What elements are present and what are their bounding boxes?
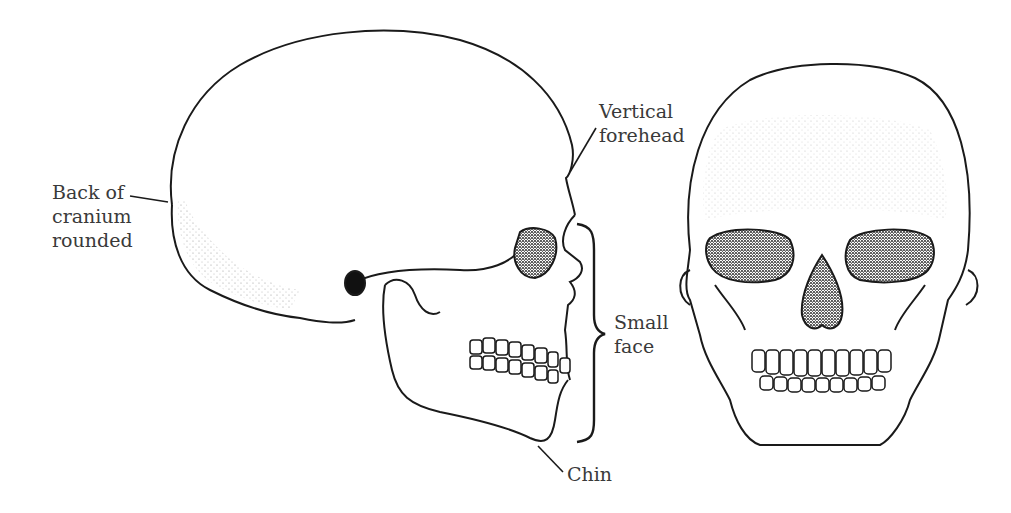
label-vertical-forehead: Vertical forehead <box>599 99 685 147</box>
leader-back-of-cranium <box>130 196 168 202</box>
label-chin: Chin <box>567 462 612 486</box>
skull-illustration <box>0 0 1011 513</box>
leader-chin <box>538 446 563 472</box>
label-back-of-cranium: Back of cranium rounded <box>52 180 133 252</box>
leader-vertical-forehead <box>570 128 596 172</box>
label-small-face: Small face <box>614 310 669 358</box>
frontal-skull <box>680 64 977 445</box>
small-face-brace <box>577 224 605 442</box>
lateral-skull <box>171 31 582 441</box>
